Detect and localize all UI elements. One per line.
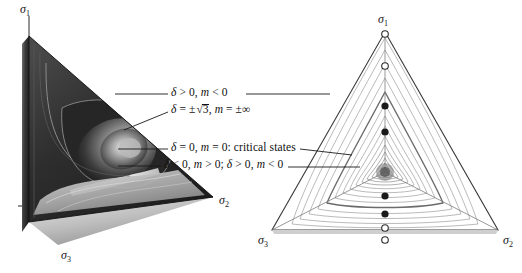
right-sigma3-label: σ3	[258, 233, 268, 249]
marker-filled-5	[381, 192, 388, 199]
right-sigma1-label: σ1	[378, 12, 388, 28]
stress-space-figure: σ1 σ2 σ3	[0, 0, 522, 273]
marker-open-apex	[382, 31, 389, 38]
annotation-mixed-signs: δ < 0, m > 0; δ > 0, m < 0	[164, 158, 283, 170]
marker-open-7	[382, 225, 389, 232]
sqrt-overbar	[202, 104, 209, 105]
right-sigma1-sub: 1	[384, 19, 388, 28]
right-sigma3-sub: 3	[264, 240, 268, 249]
marker-open-2	[382, 63, 389, 70]
sqrt-three: √3	[195, 103, 208, 115]
marker-filled-3	[381, 102, 388, 109]
marker-filled-6	[381, 210, 388, 217]
marker-filled-4	[381, 128, 388, 135]
annotation-delta-pos-m-neg: δ > 0, m < 0	[171, 86, 228, 98]
leader-2-left	[124, 112, 168, 130]
center-blur-inner	[380, 167, 390, 177]
annotation-delta-pm-sqrt3: δ = ±√3, m = ±∞	[171, 103, 250, 115]
marker-open-8	[382, 237, 389, 244]
annotation-critical-states: δ = 0, m = 0: critical states	[171, 141, 296, 153]
right-sigma2-label: σ2	[503, 233, 513, 249]
right-sigma2-sub: 2	[509, 240, 513, 249]
